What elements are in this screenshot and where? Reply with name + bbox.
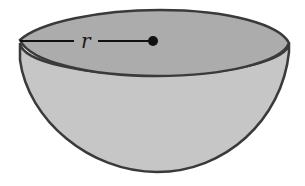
center-point — [148, 36, 158, 46]
radius-label: r — [81, 29, 92, 53]
hemisphere-diagram: r — [0, 0, 305, 186]
